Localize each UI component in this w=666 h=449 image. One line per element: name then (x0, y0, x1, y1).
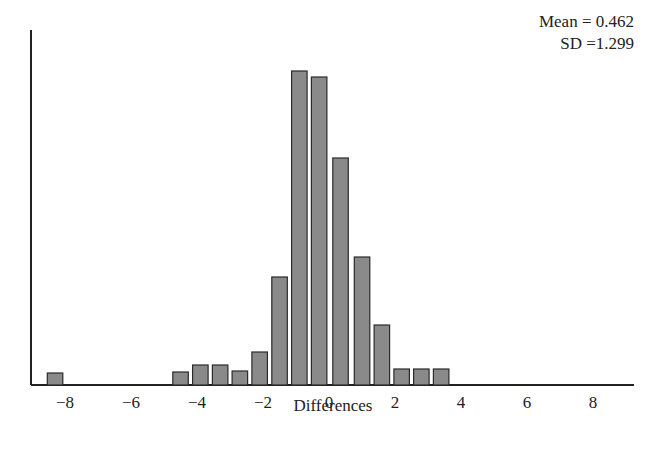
histogram-bar (333, 158, 349, 385)
x-axis-label: Differences (0, 396, 666, 416)
histogram-bar (311, 77, 327, 385)
histogram-bar (414, 369, 430, 385)
histogram-bar (232, 371, 248, 385)
mean-annotation: Mean = 0.462 (539, 12, 634, 32)
histogram-bar (433, 369, 449, 385)
histogram-bar (394, 369, 410, 385)
sd-annotation: SD =1.299 (560, 34, 634, 54)
histogram-bar (292, 71, 308, 385)
histogram-bar (193, 365, 209, 385)
histogram-bar (173, 372, 189, 385)
histogram-bar (252, 352, 268, 385)
histogram-bar (374, 325, 390, 385)
histogram-bar (47, 373, 63, 385)
histogram-bars (47, 71, 449, 385)
histogram-bar (212, 365, 228, 385)
histogram-bar (354, 257, 370, 385)
histogram-bar (272, 277, 288, 385)
histogram-chart: −8−6−4−202468 (0, 0, 666, 449)
